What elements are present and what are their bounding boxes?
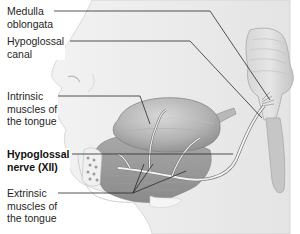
label-hypoglossal-nerve: Hypoglossal nerve (XII) xyxy=(7,148,70,173)
label-hypoglossal-canal: Hypoglossal canal xyxy=(7,35,65,60)
label-line: Medulla xyxy=(7,5,53,18)
label-line: Extrinsic xyxy=(7,187,57,200)
label-line: muscles of xyxy=(7,200,57,213)
label-line: Hypoglossal xyxy=(7,148,69,161)
label-line: Hypoglossal xyxy=(7,35,64,48)
label-line: the tongue xyxy=(7,115,57,128)
label-line: Intrinsic xyxy=(7,90,57,103)
label-line: muscles of xyxy=(7,103,57,116)
label-extrinsic-muscles: Extrinsic muscles of the tongue xyxy=(7,187,58,225)
label-intrinsic-muscles: Intrinsic muscles of the tongue xyxy=(7,90,58,128)
label-medulla-oblongata: Medulla oblongata xyxy=(7,5,54,30)
label-line: oblongata xyxy=(7,18,53,31)
label-line: canal xyxy=(7,48,64,61)
label-line: the tongue xyxy=(7,212,57,225)
label-line: nerve (XII) xyxy=(7,161,69,174)
